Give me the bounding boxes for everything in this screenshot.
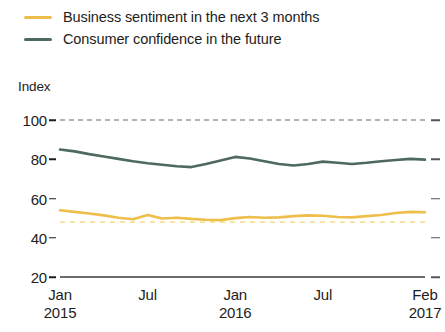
reference-line-group xyxy=(60,120,425,222)
series-line xyxy=(60,210,425,220)
plot-area xyxy=(0,0,445,332)
line-chart: Index 10080604020 Jan2015JulJan2016JulFe… xyxy=(0,0,445,332)
series-line xyxy=(60,149,425,167)
data-series-group xyxy=(60,149,425,220)
